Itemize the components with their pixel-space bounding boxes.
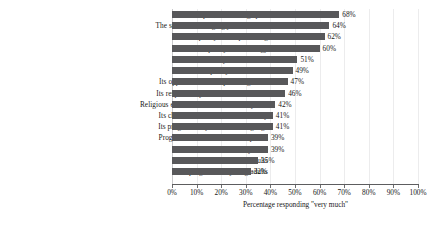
bar [172,146,268,153]
bar-row: Its character as a diverse community41% [0,110,442,121]
bar-value-label: 47% [288,76,304,87]
bar-value-label: 60% [320,43,336,54]
bar-value-label: 39% [268,144,284,155]
bar-value-label: 46% [285,88,301,99]
bar [172,11,339,18]
bar-value-label: 64% [329,20,345,31]
bar-chart: Its open, welcoming spirit68%The sense o… [0,0,442,226]
bar-row: Its programs for young adults32% [0,166,442,177]
bar-row: Its respect for your cultural traditions… [0,88,442,99]
bar-row: Its opportunities for spiritual growth47… [0,76,442,87]
x-axis-title: Percentage responding "very much" [172,200,419,210]
bar-row: The quality of the liturgy60% [0,43,442,54]
bar-value-label: 42% [275,99,291,110]
bar-value-label: 68% [339,9,355,20]
bar-value-label: 32% [251,166,267,177]
bar-row: The quality of the preaching62% [0,31,442,42]
bar [172,112,273,119]
bar-row: Its commitment to social justice39% [0,144,442,155]
bar [172,22,329,29]
bar-row: Its programs in your native language41% [0,121,442,132]
bar [172,168,251,175]
bar [172,67,293,74]
bar-value-label: 39% [268,132,284,143]
bar [172,45,320,52]
bar-value-label: 35% [258,155,274,166]
bar-row: Its faith formation for adults35% [0,155,442,166]
bar [172,134,268,141]
bar-value-label: 51% [297,54,313,65]
bar-value-label: 62% [325,31,341,42]
bar-value-label: 41% [273,121,289,132]
bar [172,33,325,40]
bar-row: Programs and activities of the parish39% [0,132,442,143]
bar-value-label: 49% [293,65,309,76]
bar-row: Religious education for children and you… [0,99,442,110]
bar [172,123,273,130]
x-tick-label: 100% [398,188,438,198]
bar-row: The sense of belonging you feel there64% [0,20,442,31]
bar [172,157,258,164]
bar-row: The beauty of the church51% [0,54,442,65]
bar-row: Its open, welcoming spirit68% [0,9,442,20]
bar-row: The quality of the music49% [0,65,442,76]
bar [172,101,275,108]
bar [172,78,288,85]
bar-value-label: 41% [273,110,289,121]
bar [172,90,285,97]
bar [172,56,297,63]
